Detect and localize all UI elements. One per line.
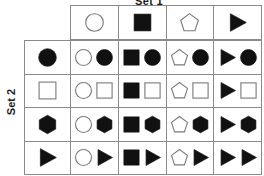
black-square-icon	[122, 115, 141, 134]
matrix-cell-r1-c1	[71, 41, 119, 74]
white-circle-icon	[74, 148, 93, 167]
black-square-icon	[122, 48, 141, 67]
matrix-cell-r3-c3	[167, 108, 215, 141]
white-pentagon-icon	[170, 148, 189, 167]
black-circle-icon	[37, 47, 58, 68]
white-circle-icon	[74, 81, 93, 100]
column-header-cell-1	[71, 6, 119, 39]
matrix-cell-r1-c2	[119, 41, 167, 74]
matrix-cell-r3-c1	[71, 108, 119, 141]
row-header-cell-3	[25, 108, 71, 141]
white-pentagon-icon	[179, 12, 200, 33]
black-circle-icon	[239, 48, 258, 67]
white-square-icon	[95, 81, 114, 100]
row-header-cell-4	[25, 142, 71, 175]
matrix-cell-r4-c4	[214, 142, 261, 175]
black-circle-icon	[143, 48, 162, 67]
black-circle-icon	[191, 48, 210, 67]
matrix-cell-r2-c1	[71, 75, 119, 108]
row-header-cell-2	[25, 75, 71, 108]
black-circle-icon	[95, 48, 114, 67]
black-hexagon-icon	[37, 114, 58, 135]
white-circle-icon	[74, 115, 93, 134]
white-pentagon-icon	[170, 48, 189, 67]
black-triangle-icon	[218, 148, 237, 167]
matrix-cell-r3-c2	[119, 108, 167, 141]
white-circle-icon	[74, 48, 93, 67]
black-triangle-icon	[218, 81, 237, 100]
black-triangle-icon	[239, 148, 258, 167]
black-triangle-icon	[218, 115, 237, 134]
black-triangle-icon	[191, 148, 210, 167]
black-square-icon	[122, 81, 141, 100]
column-header-cell-3	[167, 6, 215, 39]
black-triangle-icon	[143, 148, 162, 167]
white-square-icon	[37, 80, 58, 101]
black-hexagon-icon	[143, 115, 162, 134]
white-square-icon	[191, 81, 210, 100]
matrix-row	[25, 108, 261, 142]
white-circle-icon	[84, 12, 105, 33]
row-header-cell-1	[25, 41, 71, 74]
matrix-cell-r2-c4	[214, 75, 261, 108]
matrix-cell-r3-c4	[214, 108, 261, 141]
black-hexagon-icon	[95, 115, 114, 134]
white-square-icon	[143, 81, 162, 100]
black-triangle-icon	[37, 147, 58, 168]
white-pentagon-icon	[170, 115, 189, 134]
matrix-cell-r4-c3	[167, 142, 215, 175]
black-square-icon	[122, 148, 141, 167]
black-triangle-icon	[95, 148, 114, 167]
black-triangle-icon	[218, 48, 237, 67]
matrix-row	[25, 142, 261, 175]
black-hexagon-icon	[191, 115, 210, 134]
black-square-icon	[132, 12, 153, 33]
black-hexagon-icon	[239, 115, 258, 134]
matrix-cell-r4-c1	[71, 142, 119, 175]
matrix-row	[25, 41, 261, 75]
white-square-icon	[239, 81, 258, 100]
set-2-label: Set 2	[5, 70, 17, 134]
matrix-cell-r1-c4	[214, 41, 261, 74]
column-header-cell-2	[119, 6, 167, 39]
column-header-cell-4	[214, 6, 261, 39]
matrix-row	[25, 75, 261, 109]
matrix-cell-r2-c2	[119, 75, 167, 108]
matrix-cell-r2-c3	[167, 75, 215, 108]
column-header-row	[70, 5, 262, 40]
white-pentagon-icon	[170, 81, 189, 100]
matrix-cell-r1-c3	[167, 41, 215, 74]
matrix-cell-r4-c2	[119, 142, 167, 175]
matrix-figure: Set 1 Set 2	[0, 0, 264, 176]
matrix-body	[24, 40, 262, 175]
black-triangle-icon	[227, 12, 248, 33]
